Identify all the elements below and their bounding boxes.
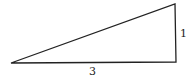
base-length-label: 3 xyxy=(89,65,96,78)
triangle-diagram: 3 1 xyxy=(0,0,195,79)
height-length-label: 1 xyxy=(180,27,187,40)
right-triangle xyxy=(11,4,176,63)
